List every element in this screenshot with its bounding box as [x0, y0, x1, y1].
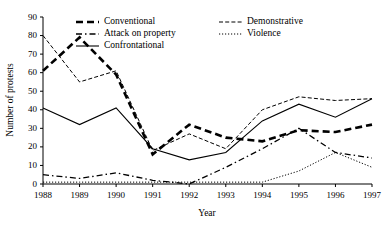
series-line-violence — [43, 152, 372, 182]
x-tick-label: 1992 — [180, 190, 198, 200]
data-series-group — [43, 36, 372, 184]
series-line-conventional — [43, 37, 372, 154]
y-tick-label: 30 — [28, 123, 38, 133]
series-line-confrontational — [43, 99, 372, 160]
legend-item-conventional[interactable]: Conventional — [76, 16, 156, 26]
legend-item-demonstrative[interactable]: Demonstrative — [219, 16, 303, 26]
protest-line-chart: 0102030405060708090 Number of protests 1… — [0, 0, 385, 228]
legend-item-violence[interactable]: Violence — [219, 28, 281, 38]
x-axis-group: 1988198919901991199219931994199519961997… — [34, 184, 382, 218]
chart-canvas: 0102030405060708090 Number of protests 1… — [0, 0, 385, 228]
legend-label: Violence — [247, 28, 281, 38]
y-tick-label: 10 — [28, 160, 38, 170]
x-axis-title: Year — [198, 208, 216, 218]
x-tick-labels: 1988198919901991199219931994199519961997 — [34, 190, 382, 200]
legend-item-attack-on-property[interactable]: Attack on property — [76, 28, 176, 38]
series-line-demonstrative — [43, 36, 372, 151]
legend-item-confrontational[interactable]: Confrontational — [76, 40, 165, 50]
y-tick-label: 50 — [28, 86, 38, 96]
x-tick-label: 1988 — [34, 190, 53, 200]
x-tick-label: 1996 — [326, 190, 345, 200]
legend-label: Conventional — [104, 16, 156, 26]
legend-label: Confrontational — [104, 40, 165, 50]
x-tick-label: 1997 — [363, 190, 382, 200]
x-tick-label: 1990 — [107, 190, 126, 200]
x-tick-label: 1994 — [253, 190, 272, 200]
y-tick-label: 40 — [28, 104, 38, 114]
x-tick-label: 1991 — [144, 190, 162, 200]
y-axis-group: 0102030405060708090 Number of protests — [5, 12, 43, 189]
y-tick-label: 70 — [28, 49, 38, 59]
x-tick-label: 1989 — [71, 190, 90, 200]
y-tick-labels: 0102030405060708090 — [28, 12, 38, 189]
y-tick-label: 90 — [28, 12, 38, 22]
y-axis-title: Number of protests — [5, 63, 15, 137]
legend-label: Attack on property — [104, 28, 176, 38]
y-tick-label: 80 — [28, 30, 38, 40]
legend-label: Demonstrative — [247, 16, 303, 26]
y-tick-label: 0 — [33, 179, 38, 189]
x-tick-label: 1995 — [290, 190, 309, 200]
y-tick-label: 60 — [28, 67, 38, 77]
y-tick-label: 20 — [28, 141, 38, 151]
chart-legend: ConventionalDemonstrativeAttack on prope… — [76, 16, 303, 50]
x-tick-label: 1993 — [217, 190, 236, 200]
